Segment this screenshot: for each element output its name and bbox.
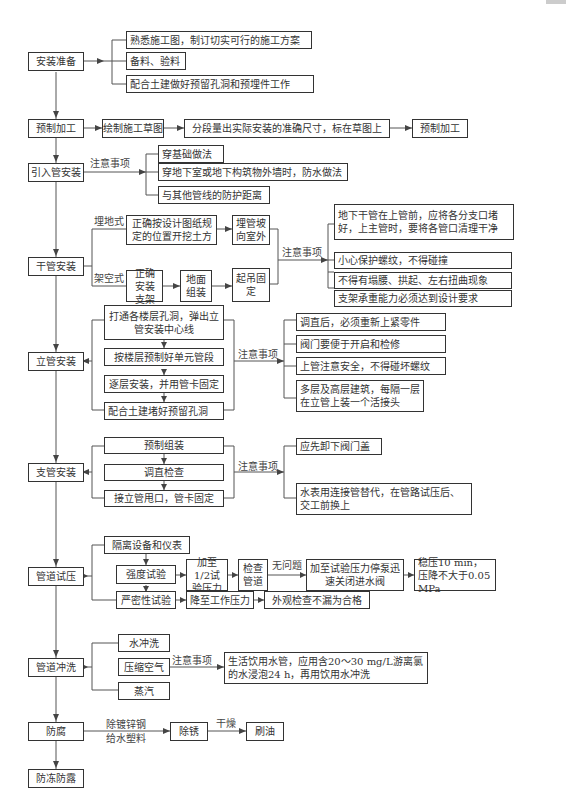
strength-final-pressurize: 加至试验压力停泵迅速关闭进水阀 — [306, 559, 404, 591]
tightness-test: 严密性试验 — [116, 591, 176, 609]
prefab-step: 预制加工 — [412, 119, 468, 138]
main-pipe-note-item: 支架承重能力必须达到设计要求 — [334, 290, 512, 307]
overhead-label: 架空式 — [94, 273, 124, 285]
strength-step-inspect: 检查管道 — [238, 559, 268, 591]
strength-final-stabilize: 稳压10 min，压降不大于0.05 MPa — [414, 559, 496, 591]
riser-note-item: 多层及高层建筑，每隔一层在立管上装一个活接头 — [296, 380, 424, 412]
isolate-equipment: 隔离设备和仪表 — [104, 536, 190, 554]
inlet-note-item: 穿基础做法 — [158, 145, 224, 163]
branch-step: 接立管甩口，管卡固定 — [104, 490, 224, 507]
branch-note-item: 应先卸下阀门盖 — [296, 438, 382, 455]
buried-step-slope: 埋管坡向室外 — [232, 215, 270, 245]
flush-note: 生活饮用水管，应用含20～30 mg/L游离氯的水浸泡24 h，再用饮用水冲洗 — [224, 652, 428, 684]
strength-step-half: 加至1/2试验压力 — [186, 559, 228, 591]
flush-note-label: 注意事项 — [172, 655, 212, 667]
prefab-step: 绘制施工草图 — [102, 119, 164, 138]
main-pipe-note-item: 地下干管在上管前，应将各分支口堵好，上主管时，要将各管口清理干净 — [334, 204, 514, 240]
prep-item: 熟悉施工图，制订切实可行的施工方案 — [126, 31, 312, 49]
step-prefab: 预制加工 — [28, 119, 84, 138]
riser-note-item: 阀门要便于开启和检修 — [296, 335, 446, 353]
anticorrosion-cond-1: 除镀锌钢 — [106, 719, 146, 731]
flush-method: 压缩空气 — [118, 658, 170, 676]
step-inlet-pipe: 引入管安装 — [28, 163, 84, 182]
no-problem-label: 无问题 — [272, 560, 302, 572]
step-install-prep: 安装准备 — [28, 52, 84, 71]
step-branch-pipe: 支管安装 — [28, 463, 84, 482]
step-frost-protection: 防冻防露 — [28, 769, 84, 788]
riser-step: 打通各楼层孔洞，弹出立管安装中心线 — [104, 305, 224, 340]
buried-step-excavate: 正确按设计图纸规定的位置开挖土方 — [126, 215, 217, 245]
main-pipe-note-item: 小心保护螺纹，不得碰撞 — [334, 252, 512, 269]
main-pipe-note-label: 注意事项 — [282, 247, 322, 259]
riser-step: 配合土建堵好预留孔洞 — [104, 402, 224, 420]
branch-note-item: 水表用连接管替代，在管路试压后、交工前换上 — [296, 483, 472, 515]
prep-item: 配合土建做好预留孔洞和预埋件工作 — [126, 75, 314, 93]
flush-method: 水冲洗 — [118, 634, 170, 652]
step-riser: 立管安装 — [28, 352, 84, 371]
tightness-step-reduce: 降至工作压力 — [186, 591, 254, 609]
inlet-note-item: 与其他管线的防护距离 — [158, 186, 270, 204]
riser-note-item: 调直后，必须重新上紧零件 — [296, 313, 446, 331]
prep-item: 备料、验料 — [126, 52, 186, 70]
flush-method: 蒸汽 — [118, 682, 170, 700]
step-flush: 管道冲洗 — [28, 658, 84, 677]
riser-step: 按楼层预制好单元管段 — [104, 348, 224, 366]
inlet-note-item: 穿地下室或地下构筑物外墙时，防水做法 — [158, 163, 348, 181]
main-pipe-note-item: 不得有塌腰、拱起、左右扭曲现象 — [334, 272, 512, 289]
buried-label: 埋地式 — [94, 216, 124, 228]
overhead-step-hoist: 起吊固定 — [232, 268, 270, 302]
branch-step: 调直检查 — [104, 464, 224, 481]
anticorrosion-cond-2: 给水塑料 — [106, 733, 146, 745]
overhead-step-bracket: 正确安装支架 — [126, 270, 163, 302]
riser-note-item: 上管注意安全，不得碰坏螺纹 — [296, 357, 446, 375]
branch-step: 预制组装 — [104, 437, 224, 454]
dry-label: 干燥 — [216, 718, 236, 730]
riser-note-label: 注意事项 — [238, 349, 278, 361]
overhead-step-assemble: 地面组装 — [180, 270, 212, 302]
rust-removal: 除锈 — [170, 722, 208, 741]
strength-test: 强度试验 — [116, 565, 176, 584]
step-pressure-test: 管道试压 — [28, 567, 84, 586]
prefab-step: 分段量出实际安装的准确尺寸，标在草图上 — [184, 119, 390, 138]
inlet-note-label: 注意事项 — [90, 158, 130, 170]
paint: 刷油 — [246, 722, 284, 741]
step-anticorrosion: 防腐 — [28, 722, 84, 741]
riser-step: 逐层安装，并用管卡固定 — [104, 375, 224, 393]
tightness-step-visual: 外观检查不漏为合格 — [264, 591, 370, 609]
branch-note-label: 注意事项 — [238, 461, 278, 473]
step-main-pipe: 干管安装 — [28, 257, 84, 276]
